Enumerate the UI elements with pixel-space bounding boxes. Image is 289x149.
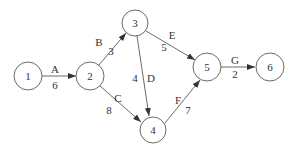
edge-B-activity: B	[95, 36, 102, 48]
svg-text:4: 4	[150, 124, 156, 136]
edge-A-duration: 6	[52, 79, 58, 91]
node-2: 2	[76, 62, 104, 90]
edge-D-activity: D	[147, 72, 155, 84]
edge-G-duration: 2	[232, 68, 238, 80]
node-1: 1	[14, 62, 42, 90]
network-diagram: A 6 B 3 C 8 4 D E 5 F 7 G 2 1 2 3 4 5 6	[0, 0, 289, 149]
edge-F-activity: F	[175, 94, 181, 106]
svg-text:1: 1	[25, 70, 31, 82]
node-6: 6	[256, 53, 284, 81]
edge-D-duration: 4	[132, 72, 138, 84]
node-4: 4	[140, 117, 166, 143]
edge-C-activity: C	[114, 92, 121, 104]
edge-C-duration: 8	[106, 104, 112, 116]
svg-text:3: 3	[132, 17, 138, 29]
node-5: 5	[193, 53, 221, 81]
svg-text:2: 2	[87, 70, 93, 82]
svg-text:5: 5	[204, 61, 210, 73]
node-3: 3	[122, 10, 148, 36]
edge-F	[165, 80, 200, 123]
edge-G-activity: G	[231, 54, 239, 66]
edge-E-duration: 5	[161, 41, 167, 53]
svg-text:6: 6	[267, 61, 273, 73]
edge-A-activity: A	[51, 63, 59, 75]
edge-B-duration: 3	[108, 45, 114, 57]
edge-E-activity: E	[169, 29, 176, 41]
edge-F-duration: 7	[185, 104, 191, 116]
